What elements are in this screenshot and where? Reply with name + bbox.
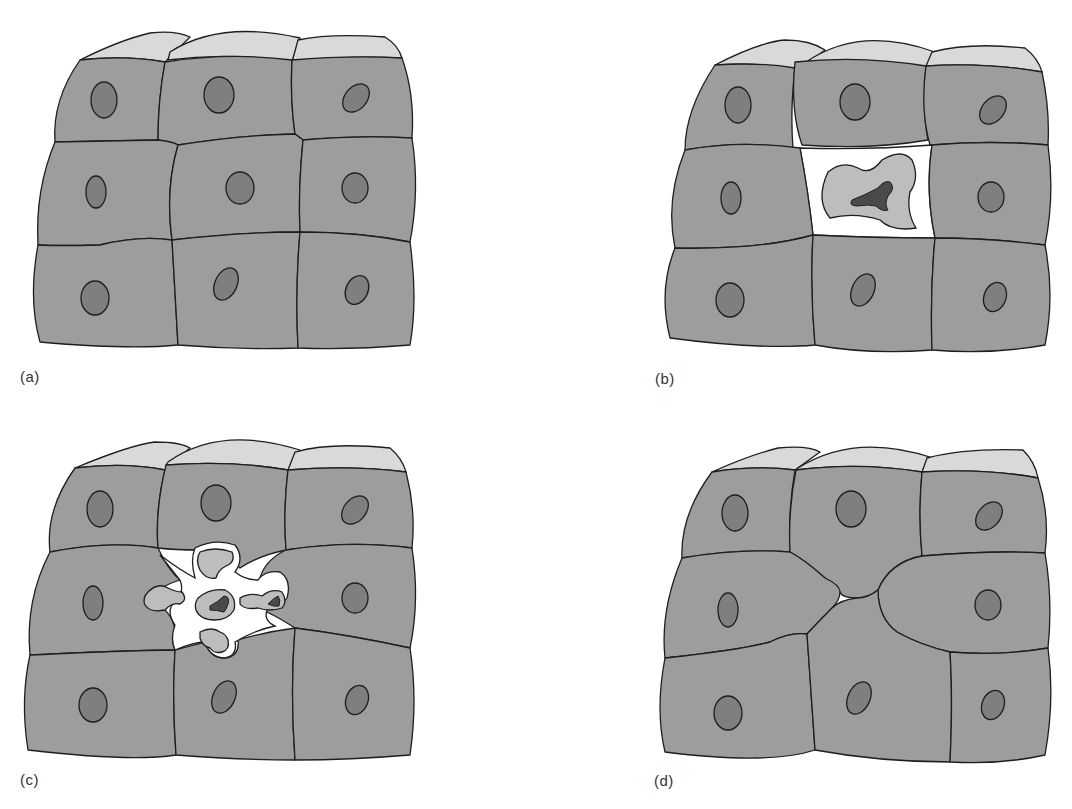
epithelium-diagram-a	[0, 0, 440, 370]
epithelium-diagram-d	[650, 420, 1072, 790]
epithelium-diagram-b	[630, 20, 1072, 370]
panel-label-b: (b)	[655, 370, 675, 387]
panel-c	[0, 410, 440, 780]
panel-a	[0, 0, 440, 370]
epithelium-diagram-c	[0, 410, 440, 780]
panel-label-a: (a)	[20, 368, 40, 385]
panel-d	[650, 420, 1072, 790]
panel-label-c: (c)	[20, 771, 39, 788]
panel-b	[630, 20, 1072, 370]
running-head: …y by apoptosis … cells	[895, 0, 1052, 11]
panel-label-d: (d)	[654, 772, 674, 789]
